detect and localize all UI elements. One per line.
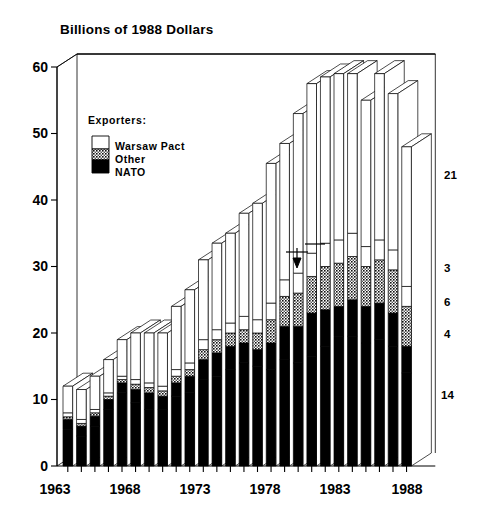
bar-segment-other <box>293 293 303 326</box>
bar-segment-soviet-union <box>388 94 398 250</box>
bar-segment-east-europe <box>144 383 154 388</box>
bar-segment-soviet-union <box>144 333 154 383</box>
bar-segment-other <box>266 320 276 343</box>
bar-segment-france-uk-etc <box>212 353 222 376</box>
bar-segment-united-states <box>171 396 181 466</box>
bar-segment-other <box>158 391 168 396</box>
bar-segment-east-europe <box>171 370 181 377</box>
bar-segment-soviet-union <box>226 233 236 323</box>
bar-segment-soviet-union <box>117 340 127 377</box>
legend-swatch-warsaw-pact <box>92 136 109 149</box>
bar-segment-soviet-union <box>131 333 141 380</box>
bar-segment-other <box>63 417 73 420</box>
bar-segment-other <box>117 380 127 383</box>
bar-segment-france-uk-etc <box>90 416 100 426</box>
bar-segment-other <box>144 388 154 393</box>
bar-segment-united-states <box>320 346 330 466</box>
bar-segment-united-states <box>375 340 385 466</box>
bar-segment-france-uk-etc <box>334 306 344 336</box>
bar-segment-other <box>212 340 222 353</box>
bar-segment-united-states <box>212 376 222 466</box>
bar-segment-other <box>361 267 371 307</box>
bar-segment-soviet-union <box>104 360 114 393</box>
bar-segment-other <box>131 384 141 389</box>
bar-segment-france-uk-etc <box>266 343 276 370</box>
bar-segment-france-uk-etc <box>158 396 168 409</box>
bar-segment-east-europe <box>280 280 290 297</box>
bar-segment-united-states <box>280 360 290 466</box>
bar-segment-east-europe <box>63 413 73 417</box>
bar-segment-soviet-union <box>171 306 181 369</box>
legend-swatch-nato <box>92 160 109 173</box>
bar-segment-other <box>239 330 249 343</box>
bar-segment-other <box>104 396 114 399</box>
bar-segment-france-uk-etc <box>375 303 385 340</box>
chart-container: Billions of 1988 Dollars 60 50 40 30 20 … <box>0 0 481 520</box>
bar-segment-soviet-union <box>307 84 317 254</box>
bar-segment-east-europe <box>266 303 276 320</box>
bar-segment-soviet-union <box>199 260 209 340</box>
bar-segment-east-europe <box>185 363 195 370</box>
bar-segment-soviet-union <box>158 333 168 386</box>
bar-segment-united-states <box>253 366 263 466</box>
bar-segment-east-europe <box>320 243 330 266</box>
bar-segment-soviet-union <box>90 376 100 409</box>
bar-segment-united-states <box>239 363 249 466</box>
bar-segment-united-states <box>266 370 276 466</box>
bar-segment-east-europe <box>348 233 358 256</box>
bar-segment-soviet-union <box>63 386 73 413</box>
bar-segment-east-europe <box>402 286 412 306</box>
bar-segment-france-uk-etc <box>253 350 263 367</box>
bar-segment-other <box>320 267 330 310</box>
bar-segment-united-states <box>293 363 303 466</box>
bar-segment-other <box>185 370 195 377</box>
bar-segment-soviet-union <box>348 74 358 234</box>
bar-segment-france-uk-etc <box>307 313 317 356</box>
bar-segment-soviet-union <box>185 290 195 363</box>
bar-segment-soviet-union <box>361 100 371 246</box>
bar-segment-east-europe <box>375 240 385 260</box>
bar-segment-france-uk-etc <box>199 360 209 380</box>
legend-swatch-other <box>92 149 109 160</box>
bar-segment-other <box>171 376 181 383</box>
bar-segment-other <box>90 413 100 416</box>
bar-segment-united-states <box>144 409 154 466</box>
bar-segment-france-uk-etc <box>226 346 236 369</box>
bar-segment-france-uk-etc <box>361 306 371 343</box>
bar-segment-other <box>280 296 290 326</box>
bar-segment-east-europe <box>293 273 303 293</box>
bar-segment-soviet-union <box>402 147 412 287</box>
bar-segment-france-uk-etc <box>63 419 73 429</box>
bar-segment-france-uk-etc <box>239 343 249 363</box>
bar-segment-france-uk-etc <box>280 326 290 359</box>
bar-segment-united-states <box>307 356 317 466</box>
bar-segment-france-uk-etc <box>131 390 141 403</box>
bar-segment-united-states <box>388 346 398 466</box>
bar-segment-east-europe <box>158 386 168 391</box>
bar-segment-france-uk-etc <box>348 300 358 337</box>
bar-segment-france-uk-etc <box>388 313 398 346</box>
bar-segment-soviet-union <box>212 243 222 329</box>
bar-segment-soviet-union <box>375 74 385 240</box>
bar-segment-france-uk-etc <box>293 326 303 363</box>
bar-segment-france-uk-etc <box>185 376 195 393</box>
bar-segment-france-uk-etc <box>402 346 412 373</box>
bar-segment-united-states <box>117 393 127 466</box>
bar-segment-east-europe <box>334 240 344 263</box>
bar-segment-east-europe <box>199 340 209 350</box>
bar-segment-other <box>334 263 344 306</box>
bar-segment-france-uk-etc <box>144 393 154 410</box>
bar-segment-other <box>226 333 236 346</box>
bar-segment-other <box>375 260 385 303</box>
bar-segment-east-europe <box>388 250 398 270</box>
bar-segment-soviet-union <box>320 77 330 243</box>
bar-segment-united-states <box>361 343 371 466</box>
bar-segment-united-states <box>63 429 73 466</box>
bar-segment-soviet-union <box>77 390 87 420</box>
bar-segment-united-states <box>104 409 114 466</box>
bar-segment-united-states <box>199 380 209 466</box>
bar-segment-other <box>77 423 87 426</box>
bar-segment-east-europe <box>239 316 249 329</box>
bar-segment-other <box>348 257 358 300</box>
bar-segment-east-europe <box>117 376 127 379</box>
